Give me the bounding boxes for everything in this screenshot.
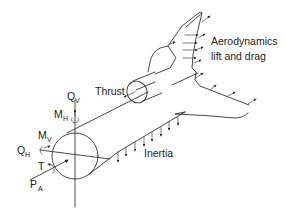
- vertical-fin-trailing-edge: [192, 13, 202, 72]
- nacelle-bottom-line: [143, 93, 162, 101]
- inertia-label: Inertia: [144, 147, 173, 159]
- qv-label: Q: [67, 90, 75, 102]
- wing-edge-line: [118, 112, 185, 152]
- pa-label: P: [30, 178, 37, 190]
- nacelle-mid-line: [136, 82, 155, 90]
- horizontal-stabilizer-front: [172, 73, 198, 85]
- mh-sub: H: [63, 115, 68, 122]
- vertical-fin-leading-edge: [168, 12, 202, 46]
- pa-sub: A: [38, 185, 43, 192]
- thrust-label: Thrust: [95, 85, 125, 97]
- thrust-arrow: [124, 92, 135, 97]
- qv-sub: V: [75, 97, 80, 104]
- horizontal-stabilizer: [195, 72, 249, 105]
- mv-sub: V: [47, 136, 52, 143]
- aircraft-load-diagram: Aerodynamics lift and drag Thrust Inerti…: [0, 0, 286, 218]
- qh-label: Q: [17, 144, 25, 156]
- mh-label: M: [54, 108, 63, 120]
- nacelle-top-line: [133, 72, 155, 81]
- pa-axis: [30, 160, 68, 180]
- fuselage: [52, 92, 248, 179]
- wing-root-curve: [175, 112, 248, 118]
- aero-label-line2: lift and drag: [211, 50, 266, 62]
- qh-sub: H: [25, 151, 30, 158]
- engine-pylon: [148, 46, 176, 74]
- t-label: T: [38, 160, 45, 172]
- aero-label-line1: Aerodynamics: [211, 35, 278, 47]
- fuselage-lower-line: [88, 152, 118, 175]
- mv-label: M: [38, 129, 47, 141]
